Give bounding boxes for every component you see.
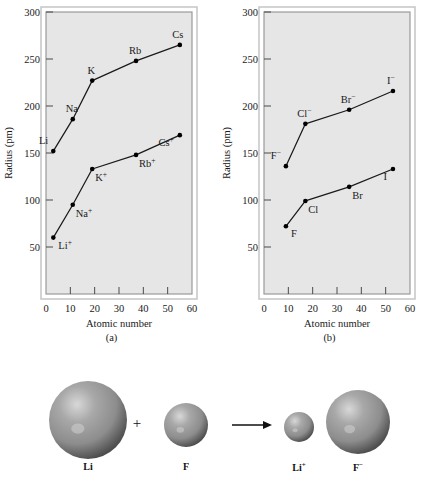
ion-formation-illustration: + Li F Li+ F− <box>0 372 439 496</box>
reaction-arrow-head <box>263 421 272 429</box>
data-point <box>303 122 308 127</box>
x-tick-label: 30 <box>114 303 125 314</box>
data-point <box>284 164 289 169</box>
sphere-label-li-cation-charge: + <box>302 461 306 469</box>
x-tick-label: 0 <box>43 303 48 314</box>
figure-root: 501001502002503000102030405060Atomic num… <box>0 0 439 496</box>
sphere-label-li-cation: Li+ <box>292 461 305 473</box>
y-tick-label: 50 <box>30 242 41 253</box>
sphere-label-li-text: Li <box>83 461 92 472</box>
x-tick-label: 20 <box>89 303 100 314</box>
data-point <box>284 224 289 229</box>
chart-panel-b: 501001502002503000102030405060Atomic num… <box>218 0 437 356</box>
y-tick-label: 150 <box>242 148 258 159</box>
y-tick-label: 300 <box>24 7 40 18</box>
x-tick-label: 20 <box>307 303 318 314</box>
ion-formation-svg <box>0 372 439 496</box>
x-tick-label: 30 <box>332 303 343 314</box>
sphere-specular <box>344 425 355 433</box>
data-point <box>178 43 183 48</box>
data-point <box>134 59 139 64</box>
sphere-li-cation <box>284 412 314 442</box>
data-point <box>90 167 95 172</box>
sphere-f <box>164 403 208 447</box>
y-tick-label: 200 <box>242 101 258 112</box>
data-point <box>391 167 396 172</box>
data-point <box>51 235 56 240</box>
data-point <box>134 153 139 158</box>
data-point <box>303 199 308 204</box>
x-tick-label: 40 <box>356 303 367 314</box>
sphere-f-anion <box>326 390 390 454</box>
data-point <box>90 78 95 83</box>
sphere-label-f-anion: F− <box>353 461 363 473</box>
y-tick-label: 250 <box>24 54 40 65</box>
data-point-label: Cl <box>308 204 318 215</box>
y-tick-label: 150 <box>24 148 40 159</box>
y-tick-label: 250 <box>242 54 258 65</box>
data-point-label: Na <box>66 103 79 114</box>
sphere-specular <box>293 428 298 432</box>
y-tick-label: 50 <box>248 242 259 253</box>
y-axis-title: Radius (pm) <box>221 126 233 179</box>
x-tick-label: 60 <box>405 303 416 314</box>
panel-a-caption: (a) <box>2 332 221 343</box>
x-tick-label: 60 <box>187 303 198 314</box>
data-point <box>347 185 352 190</box>
data-point-label: F <box>291 228 297 239</box>
data-point-label: Cs <box>172 29 183 40</box>
y-tick-label: 100 <box>24 195 40 206</box>
chart-panel-a: 501001502002503000102030405060Atomic num… <box>0 0 219 356</box>
data-point-label: Rb <box>129 45 141 56</box>
data-point <box>178 133 183 138</box>
data-point <box>70 117 75 122</box>
sphere-specular <box>71 424 84 434</box>
x-tick-label: 10 <box>283 303 294 314</box>
data-point <box>391 89 396 94</box>
x-axis-title: Atomic number <box>304 318 371 329</box>
sphere-label-f-anion-charge: − <box>359 461 363 469</box>
sphere-specular <box>177 427 184 433</box>
y-tick-label: 100 <box>242 195 258 206</box>
data-point-label: K <box>87 65 95 76</box>
sphere-label-li: Li <box>83 461 92 472</box>
data-point-label: Li <box>39 135 48 146</box>
x-axis-title: Atomic number <box>86 318 153 329</box>
plus-symbol: + <box>133 415 141 432</box>
x-tick-label: 50 <box>162 303 173 314</box>
y-tick-label: 200 <box>24 101 40 112</box>
x-tick-label: 40 <box>138 303 149 314</box>
sphere-label-f: F <box>183 461 189 472</box>
panel-b-caption: (b) <box>220 332 439 343</box>
y-axis-title: Radius (pm) <box>3 126 15 179</box>
x-tick-label: 0 <box>261 303 266 314</box>
chart-b-svg: 501001502002503000102030405060Atomic num… <box>218 0 437 332</box>
plot-background <box>264 12 410 294</box>
data-point <box>347 107 352 112</box>
data-point-label: Br <box>352 190 363 201</box>
sphere-label-f-text: F <box>183 461 189 472</box>
data-point <box>51 149 56 154</box>
data-point <box>70 202 75 207</box>
plot-background <box>46 12 192 294</box>
x-tick-label: 10 <box>65 303 76 314</box>
data-point-label: I <box>383 171 387 182</box>
x-tick-label: 50 <box>380 303 391 314</box>
y-tick-label: 300 <box>242 7 258 18</box>
chart-a-svg: 501001502002503000102030405060Atomic num… <box>0 0 219 332</box>
sphere-li <box>49 381 127 459</box>
